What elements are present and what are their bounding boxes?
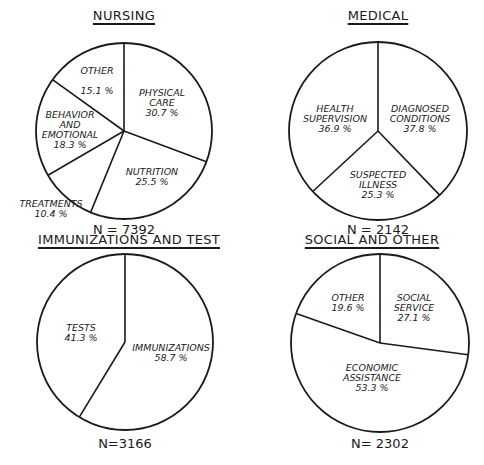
- slice-label: HEALTHSUPERVISION36.9 %: [303, 104, 367, 134]
- chart-title: IMMUNIZATIONS AND TEST: [38, 232, 220, 247]
- slice-label: IMMUNIZATIONS58.7 %: [132, 343, 210, 363]
- sample-size-label: N= 2302: [351, 436, 409, 451]
- slice-label: ECONOMICASSISTANCE53.3 %: [343, 363, 401, 393]
- slice-label: NUTRITION25.5 %: [126, 167, 178, 187]
- slice-label: SUSPECTEDILLNESS25.3 %: [350, 170, 407, 200]
- slice-label: PHYSICALCARE30.7 %: [139, 88, 185, 118]
- slice-label: SOCIALSERVICE27.1 %: [394, 293, 435, 323]
- slice-label: TESTS41.3 %: [64, 323, 97, 343]
- pie-chart-3: [291, 254, 469, 432]
- slice-label: DIAGNOSEDCONDITIONS37.8 %: [390, 104, 451, 134]
- chart-title: MEDICAL: [348, 8, 409, 23]
- slice-label: BEHAVIORANDEMOTIONAL18.3 %: [42, 110, 99, 150]
- slice-label: OTHER 15.1 %: [80, 66, 113, 96]
- chart-title: SOCIAL AND OTHER: [305, 232, 439, 247]
- sample-size-label: N=3166: [98, 436, 152, 451]
- slice-label: OTHER19.6 %: [331, 293, 364, 313]
- slice-label: TREATMENTS10.4 %: [19, 199, 82, 219]
- chart-title: NURSING: [93, 8, 155, 23]
